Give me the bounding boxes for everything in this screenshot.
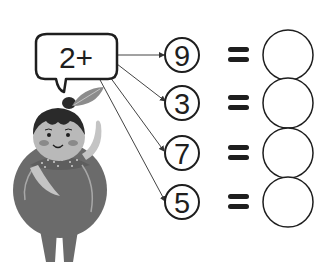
answer-circle[interactable] <box>263 78 313 128</box>
answer-circle[interactable] <box>263 128 313 178</box>
raised-arm <box>82 121 101 160</box>
equals-sign <box>228 47 249 52</box>
left-eye <box>47 133 51 137</box>
bubble-operator-text: 2+ <box>59 41 93 74</box>
number-text: 5 <box>174 187 190 219</box>
answer-circle[interactable] <box>263 30 313 80</box>
speech-bubble: 2+ <box>36 34 117 92</box>
row-2: 3 <box>165 78 313 128</box>
right-cheek <box>68 140 78 146</box>
equals-sign <box>228 95 249 100</box>
left-cheek <box>39 140 49 146</box>
row-3: 7 <box>165 128 313 178</box>
number-text: 7 <box>174 138 190 170</box>
connector-line-2 <box>117 64 165 101</box>
number-text: 3 <box>174 88 190 120</box>
row-4: 5 <box>165 177 313 227</box>
answer-circle[interactable] <box>263 177 313 227</box>
worksheet-canvas: 2+ 9 3 7 5 <box>0 0 319 262</box>
equals-sign <box>228 194 249 199</box>
character-illustration <box>13 87 107 262</box>
right-eye <box>66 133 70 137</box>
row-1: 9 <box>165 30 313 80</box>
number-text: 9 <box>174 40 190 72</box>
equals-sign <box>228 145 249 150</box>
